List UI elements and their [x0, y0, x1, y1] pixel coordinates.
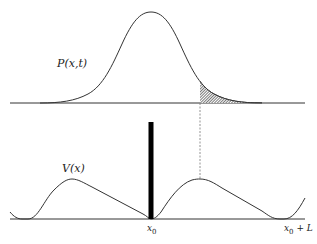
- x0-label: x0: [147, 224, 157, 236]
- diagram-canvas: [0, 0, 317, 244]
- potential-curve: [10, 179, 305, 219]
- top-panel: [10, 12, 305, 103]
- barrier-wall: [149, 122, 154, 219]
- probability-label: P(x,t): [57, 58, 87, 69]
- potential-label: V(x): [62, 163, 85, 174]
- bottom-panel: [10, 122, 305, 219]
- x0L-suffix: + L: [294, 223, 313, 233]
- probability-label-text: P(x,t): [57, 57, 87, 70]
- potential-label-text: V(x): [62, 162, 85, 175]
- shaded-tail-outline: [180, 44, 262, 103]
- shaded-tail-region: [151, 12, 262, 103]
- x0-plus-L-label: x0 + L: [284, 224, 313, 236]
- x0-sub: 0: [152, 228, 156, 236]
